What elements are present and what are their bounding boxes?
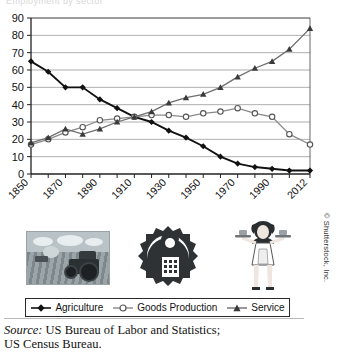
svg-text:20: 20	[12, 133, 24, 145]
chart-svg: 0102030405060708090185018701890191019301…	[0, 8, 320, 216]
goods-production-emblem	[132, 223, 204, 289]
copyright-credit: © Shutterstock, Inc.	[322, 205, 331, 291]
figure-root: Employment by sector 0102030405060708090…	[0, 0, 343, 354]
agriculture-photo	[26, 231, 110, 285]
service-illustration	[232, 219, 294, 291]
source-line-2: US Census Bureau.	[4, 337, 102, 351]
filled-triangle-icon	[226, 303, 248, 313]
svg-text:1950: 1950	[178, 176, 203, 201]
legend-item-goods-production[interactable]: Goods Production	[112, 302, 217, 313]
svg-text:1970: 1970	[212, 176, 237, 201]
svg-text:60: 60	[12, 64, 24, 76]
line-chart: 0102030405060708090185018701890191019301…	[0, 8, 320, 216]
svg-text:1870: 1870	[40, 176, 65, 201]
legend-label-service: Service	[251, 302, 284, 313]
svg-text:1890: 1890	[74, 176, 99, 201]
cut-off-title: Employment by sector	[6, 0, 103, 6]
svg-text:90: 90	[12, 12, 24, 24]
open-circle-icon	[112, 303, 134, 313]
sector-image-strip	[26, 219, 312, 291]
legend-item-agriculture[interactable]: Agriculture	[30, 302, 103, 313]
filled-diamond-icon	[30, 303, 52, 313]
svg-text:2012: 2012	[284, 176, 309, 201]
svg-text:40: 40	[12, 99, 24, 111]
legend-item-service[interactable]: Service	[226, 302, 284, 313]
svg-text:1850: 1850	[5, 176, 30, 201]
svg-text:50: 50	[12, 81, 24, 93]
svg-text:70: 70	[12, 47, 24, 59]
source-label: Source:	[4, 323, 42, 337]
chart-legend: Agriculture Goods Production Service	[25, 298, 290, 317]
svg-text:1910: 1910	[109, 176, 134, 201]
svg-text:10: 10	[12, 151, 24, 163]
svg-text:1990: 1990	[247, 176, 272, 201]
svg-text:1930: 1930	[143, 176, 168, 201]
source-line-1: US Bureau of Labor and Statistics;	[46, 323, 221, 337]
source-note: Source: US Bureau of Labor and Statistic…	[4, 323, 294, 351]
legend-label-agriculture: Agriculture	[55, 302, 103, 313]
svg-text:30: 30	[12, 116, 24, 128]
legend-label-goods-production: Goods Production	[137, 302, 217, 313]
svg-text:80: 80	[12, 29, 24, 41]
footer-divider	[4, 318, 304, 319]
